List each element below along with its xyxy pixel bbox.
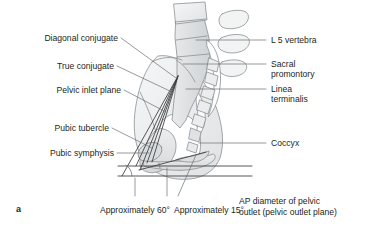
label-l5-vertebra: L 5 vertebra: [271, 35, 317, 45]
bone-group: [134, 2, 249, 179]
label-ap-diameter-outlet-line2: outlet (pelvic outlet plane): [239, 207, 337, 217]
vertebral-process-lower: [219, 60, 247, 77]
pelvis-anatomy-figure: Diagonal conjugate True conjugate Pelvic…: [0, 0, 368, 227]
panel-id-label: a: [16, 204, 21, 214]
label-pubic-symphysis: Pubic symphysis: [0, 148, 114, 158]
label-linea-terminalis-line2: terminalis: [271, 94, 308, 104]
label-pelvic-inlet-plane: Pelvic inlet plane: [0, 85, 121, 95]
label-linea-terminalis: Linea terminalis: [271, 84, 308, 104]
label-diagonal-conjugate: Diagonal conjugate: [0, 33, 118, 43]
label-linea-terminalis-line1: Linea: [271, 84, 308, 94]
label-sacral-promontory-line2: promontory: [271, 69, 314, 79]
label-true-conjugate: True conjugate: [0, 61, 114, 71]
label-sacral-promontory: Sacral promontory: [271, 59, 314, 79]
vertebral-process-upper: [219, 10, 248, 28]
label-ap-diameter-outlet-line1: AP diameter of pelvic: [239, 196, 320, 206]
label-pubic-tubercle: Pubic tubercle: [0, 123, 109, 133]
label-coccyx: Coccyx: [271, 138, 299, 148]
label-sacral-promontory-line1: Sacral: [271, 59, 314, 69]
vertebral-process-middle: [218, 34, 249, 53]
